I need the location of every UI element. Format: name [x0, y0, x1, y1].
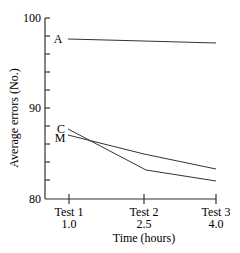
series-m-line [68, 135, 216, 169]
x-tick-time1: 1.0 [62, 217, 77, 231]
y-tick-100: 100 [23, 11, 41, 25]
y-tick-80: 80 [29, 192, 41, 206]
x-axis [45, 194, 216, 204]
line-chart: 100 90 80 Average errors (No.) Test 1 1.… [0, 0, 240, 253]
series-a-label: A [54, 32, 63, 46]
series-m-label: M [55, 131, 66, 145]
y-axis [45, 18, 50, 199]
y-axis-title: Average errors (No.) [7, 68, 21, 167]
x-tick-time3: 4.0 [209, 217, 224, 231]
series-a-line [68, 39, 216, 43]
x-tick-time2: 2.5 [137, 217, 152, 231]
y-tick-90: 90 [29, 101, 41, 115]
series-c-line [68, 129, 216, 181]
x-axis-title: Time (hours) [113, 231, 176, 245]
